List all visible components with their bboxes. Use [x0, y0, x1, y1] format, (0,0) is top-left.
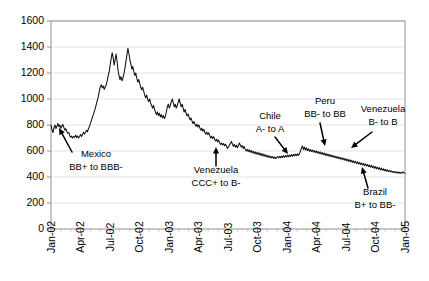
annotation-label-line1: Brazil — [363, 186, 387, 197]
x-tick-label: Apr-03 — [192, 221, 204, 253]
x-tick-label: Apr-04 — [310, 221, 322, 253]
annotation-label-line1: Chile — [259, 110, 281, 121]
annotation-arrow-line — [275, 137, 285, 150]
x-axis: Jan-02Apr-02Jul-02Oct-02Jan-03Apr-03Jul-… — [45, 221, 411, 253]
x-tick-label: Jan-05 — [399, 221, 411, 253]
annotation-arrow-line — [355, 132, 372, 145]
annotation-venezuela-ccc: VenezuelaCCC+ to B- — [192, 147, 241, 188]
annotation-label-line1: Venezuela — [361, 103, 406, 114]
y-tick-label: 1400 — [21, 40, 45, 52]
annotations: MexicoBB+ to BBB-VenezuelaCCC+ to B-Chil… — [59, 95, 406, 210]
annotation-label-line1: Peru — [315, 95, 335, 106]
y-tick-label: 1200 — [21, 66, 45, 78]
y-tick-label: 600 — [26, 144, 44, 156]
annotation-label-line2: BB- to BB — [304, 108, 346, 119]
annotation-venezuela-b: VenezuelaB- to B — [351, 103, 406, 148]
annotation-label-line2: CCC+ to B- — [192, 177, 241, 188]
annotation-peru: PeruBB- to BB — [304, 95, 346, 146]
annotation-arrowhead — [361, 167, 367, 174]
annotation-chile: ChileA- to A — [256, 110, 288, 154]
annotation-arrowhead — [321, 139, 327, 146]
x-tick-label: Jan-04 — [281, 221, 293, 253]
chart-container: 02004006008001000120014001600Jan-02Apr-0… — [0, 0, 429, 281]
x-tick-label: Oct-04 — [369, 221, 381, 253]
spread-index-line-chart: 02004006008001000120014001600Jan-02Apr-0… — [0, 0, 429, 281]
x-tick-label: Jul-02 — [104, 223, 116, 252]
annotation-mexico: MexicoBB+ to BBB- — [59, 128, 123, 172]
annotation-arrowhead — [213, 147, 219, 154]
x-tick-label: Apr-02 — [74, 221, 86, 253]
x-tick-label: Jan-03 — [163, 221, 175, 253]
x-tick-label: Oct-02 — [133, 221, 145, 253]
annotation-brazil: BrazilB+ to BB- — [355, 167, 396, 210]
annotation-label-line1: Mexico — [81, 148, 111, 159]
y-tick-label: 0 — [38, 222, 44, 234]
annotation-arrow-line — [320, 123, 324, 141]
x-tick-label: Oct-03 — [251, 221, 263, 253]
x-tick-label: Jul-04 — [340, 223, 352, 252]
annotation-label-line2: B- to B — [368, 116, 397, 127]
gridlines — [51, 21, 405, 203]
y-axis: 02004006008001000120014001600 — [21, 14, 51, 234]
y-tick-label: 1000 — [21, 92, 45, 104]
annotation-label-line2: A- to A — [256, 123, 285, 134]
y-tick-label: 1600 — [21, 14, 45, 26]
y-tick-label: 800 — [26, 118, 44, 130]
x-tick-label: Jan-02 — [45, 221, 57, 253]
annotation-label-line2: BB+ to BBB- — [69, 161, 123, 172]
x-tick-label: Jul-03 — [222, 223, 234, 252]
y-tick-label: 200 — [26, 196, 44, 208]
annotation-arrow-line — [61, 132, 72, 152]
y-tick-label: 400 — [26, 170, 44, 182]
annotation-label-line2: B+ to BB- — [355, 199, 396, 210]
